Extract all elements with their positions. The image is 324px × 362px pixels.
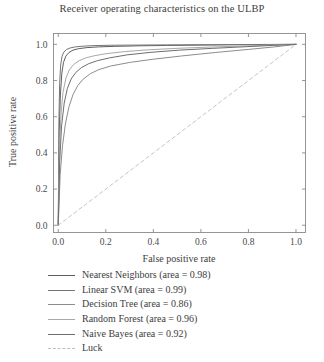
legend-item[interactable]: Luck (48, 341, 308, 356)
legend-line-icon (48, 343, 75, 353)
legend-line-icon (48, 285, 75, 295)
axis-ticks: 0.00.20.40.60.81.00.00.20.40.60.81.0 (36, 34, 306, 248)
legend-item-label: Linear SVM (area = 0.99) (82, 285, 186, 295)
y-tick-label: 1.0 (36, 40, 48, 50)
legend-item[interactable]: Naive Bayes (area = 0.92) (48, 326, 308, 341)
legend-line-icon (48, 270, 75, 280)
legend-item-label: Naive Bayes (area = 0.92) (82, 329, 187, 339)
legend-item-label: Decision Tree (area = 0.86) (82, 299, 192, 309)
legend-item[interactable]: Nearest Neighbors (area = 0.98) (48, 268, 308, 283)
x-axis-label: False positive rate (143, 253, 216, 264)
legend-line-icon (48, 329, 75, 339)
legend-item[interactable]: Decision Tree (area = 0.86) (48, 297, 308, 312)
y-tick-label: 0.0 (36, 221, 48, 231)
y-tick-label: 0.6 (36, 112, 48, 122)
legend-line-icon (48, 314, 75, 324)
x-tick-label: 0.8 (243, 237, 255, 247)
legend-item-label: Nearest Neighbors (area = 0.98) (82, 270, 211, 280)
roc-curves (58, 44, 296, 225)
x-tick-label: 0.2 (100, 237, 112, 247)
y-tick-label: 0.4 (36, 148, 48, 158)
x-tick-label: 1.0 (290, 237, 302, 247)
roc-figure: Receiver operating characteristics on th… (0, 0, 324, 362)
legend-item[interactable]: Linear SVM (area = 0.99) (48, 283, 308, 298)
legend-line-icon (48, 299, 75, 309)
legend-item-label: Luck (82, 343, 103, 353)
x-tick-label: 0.4 (147, 237, 159, 247)
legend-item[interactable]: Random Forest (area = 0.96) (48, 312, 308, 327)
legend-item-label: Random Forest (area = 0.96) (82, 314, 197, 324)
y-tick-label: 0.2 (36, 184, 48, 194)
y-tick-label: 0.8 (36, 76, 48, 86)
x-tick-label: 0.6 (195, 237, 207, 247)
y-axis-label: True positive rate (7, 96, 18, 167)
x-tick-label: 0.0 (52, 237, 64, 247)
chart-legend: Nearest Neighbors (area = 0.98)Linear SV… (48, 268, 308, 356)
